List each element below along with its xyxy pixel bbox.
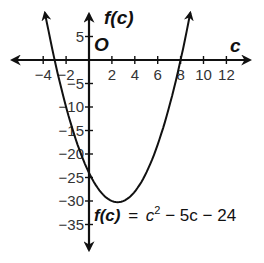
x-tick-label: 12: [218, 66, 235, 83]
x-tick-label: 4: [131, 66, 139, 83]
y-axis-label: f(c): [104, 7, 134, 28]
y-tick-label: −30: [59, 192, 84, 209]
y-tick-label: 5: [76, 28, 84, 45]
y-tick-label: −5: [67, 75, 84, 92]
y-tick-label: −25: [59, 169, 84, 186]
origin-label: O: [94, 34, 109, 55]
y-tick-label: −10: [59, 98, 84, 115]
parabola-chart: −4−224681012 5−5−10−15−20−25−30−35 f(c) …: [0, 0, 264, 263]
x-tick-label: 2: [108, 66, 116, 83]
equation-label: f(c) = c2 − 5c − 24: [94, 204, 236, 225]
y-tick-label: −35: [59, 216, 84, 233]
x-tick-label: 10: [195, 66, 212, 83]
x-tick-label: 6: [154, 66, 162, 83]
y-axis-ticks: 5−5−10−15−20−25−30−35: [59, 28, 93, 233]
x-tick-label: −4: [35, 66, 52, 83]
x-axis-label: c: [230, 35, 241, 56]
